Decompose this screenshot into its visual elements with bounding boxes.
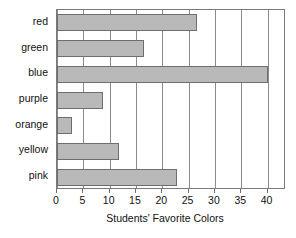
tick-label-0: 0 <box>53 194 59 206</box>
plot-area <box>56 9 285 189</box>
x-axis-title: Students' Favorite Colors <box>0 212 296 225</box>
category-label-purple: purple <box>0 93 52 104</box>
bar-chart: redgreenbluepurpleorangeyellowpink 05101… <box>0 0 296 238</box>
bar-green <box>57 40 144 57</box>
bar-row <box>57 14 284 31</box>
category-label-blue: blue <box>0 67 52 78</box>
category-label-red: red <box>0 16 52 27</box>
bar-blue <box>57 66 268 83</box>
bar-red <box>57 14 197 31</box>
bar-orange <box>57 117 72 134</box>
tick-mark-5 <box>82 189 83 193</box>
category-axis-labels: redgreenbluepurpleorangeyellowpink <box>0 9 52 189</box>
x-axis-ticks: 0510152025303540 <box>56 189 285 211</box>
bar-row <box>57 92 284 109</box>
category-label-pink: pink <box>0 170 52 181</box>
tick-mark-0 <box>56 189 57 193</box>
bar-purple <box>57 92 103 109</box>
bar-rows <box>57 10 284 188</box>
tick-label-35: 35 <box>234 194 246 206</box>
tick-label-20: 20 <box>155 194 167 206</box>
tick-label-15: 15 <box>129 194 141 206</box>
tick-mark-20 <box>161 189 162 193</box>
category-label-green: green <box>0 42 52 53</box>
tick-label-25: 25 <box>182 194 194 206</box>
tick-mark-35 <box>240 189 241 193</box>
category-label-orange: orange <box>0 119 52 130</box>
tick-mark-30 <box>214 189 215 193</box>
x-axis-title-text: Students' Favorite Colors <box>72 212 224 224</box>
tick-label-30: 30 <box>208 194 220 206</box>
tick-label-5: 5 <box>79 194 85 206</box>
tick-label-10: 10 <box>103 194 115 206</box>
category-label-yellow: yellow <box>0 144 52 155</box>
tick-mark-10 <box>109 189 110 193</box>
bar-pink <box>57 169 177 186</box>
bar-row <box>57 169 284 186</box>
bar-yellow <box>57 143 119 160</box>
bar-row <box>57 143 284 160</box>
bar-row <box>57 66 284 83</box>
bar-row <box>57 40 284 57</box>
tick-mark-40 <box>267 189 268 193</box>
tick-label-40: 40 <box>261 194 273 206</box>
tick-mark-25 <box>188 189 189 193</box>
tick-mark-15 <box>135 189 136 193</box>
bar-row <box>57 117 284 134</box>
